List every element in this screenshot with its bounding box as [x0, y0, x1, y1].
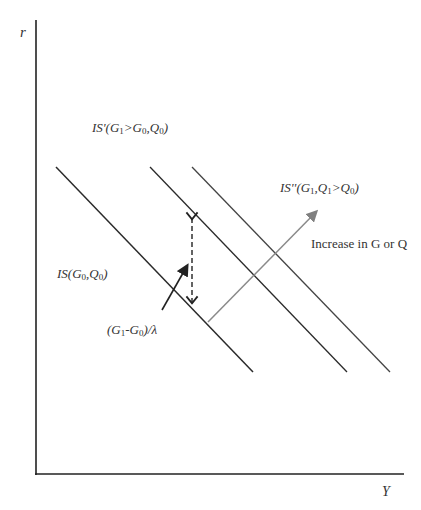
is-label: IS(G0,Q0): [57, 266, 108, 282]
y-axis-label: r: [20, 24, 26, 41]
multiplier-label: (G1-G0)/λ: [107, 322, 157, 338]
multiplier-pointer-arrow: [162, 266, 187, 310]
is-curve-diagram: [0, 0, 421, 510]
x-axis-label: Y: [382, 484, 390, 500]
is-prime-curve: [150, 167, 347, 372]
increase-shift-arrow: [208, 212, 316, 322]
is-prime-label: IS'(G1>G0,Q0): [92, 120, 168, 136]
is-double-prime-curve: [192, 167, 390, 372]
increase-label: Increase in G or Q: [311, 236, 407, 252]
is-double-prime-label: IS''(G1,Q1>Q0): [280, 180, 359, 196]
